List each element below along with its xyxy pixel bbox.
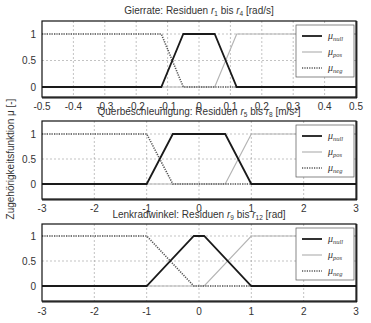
x-tick-label: 0.4 xyxy=(318,101,332,112)
x-tick-label: -1 xyxy=(142,306,151,317)
y-tick-label: 0.5 xyxy=(22,154,36,165)
legend-box xyxy=(296,125,354,177)
x-tick-label: 3 xyxy=(353,306,359,317)
x-tick-label: -0.4 xyxy=(65,101,83,112)
x-tick-label: -2 xyxy=(90,306,99,317)
y-tick-label: 0.5 xyxy=(22,55,36,66)
y-tick-label: 1 xyxy=(30,231,36,242)
y-tick-label: 0 xyxy=(30,179,36,190)
x-tick-label: -2 xyxy=(90,203,99,214)
x-tick-label: -3 xyxy=(38,203,47,214)
x-tick-label: -0.5 xyxy=(33,101,51,112)
y-tick-label: 0.5 xyxy=(22,256,36,267)
legend: μnullμposμneg xyxy=(296,228,354,280)
y-tick-label: 1 xyxy=(30,29,36,40)
x-tick-label: 0.5 xyxy=(349,101,363,112)
subplot-title: Lenkradwinkel: Residuen r9 bis r12 [rad] xyxy=(112,209,285,221)
y-tick-label: 1 xyxy=(30,129,36,140)
membership-function-figure: 00.51-0.5-0.4-0.3-0.2-0.100.10.20.30.40.… xyxy=(0,0,371,323)
subplot-querbeschleunigung: 00.51-3-2-10123Querbeschleunigung: Resid… xyxy=(22,106,359,214)
x-tick-label: 1 xyxy=(249,306,255,317)
x-tick-label: 2 xyxy=(301,306,307,317)
subplot-title: Querbeschleunigung: Residuen r5 bis r8 [… xyxy=(98,106,301,118)
y-tick-label: 0 xyxy=(30,82,36,93)
subplot-title: Gierrate: Residuen r1 bis r4 [rad/s] xyxy=(124,5,274,17)
x-tick-label: 3 xyxy=(353,203,359,214)
legend-box xyxy=(296,25,354,77)
subplot-gierrate: 00.51-0.5-0.4-0.3-0.2-0.100.10.20.30.40.… xyxy=(22,5,363,112)
x-tick-label: 2 xyxy=(301,203,307,214)
y-tick-label: 0 xyxy=(30,281,36,292)
legend: μnullμposμneg xyxy=(296,125,354,177)
subplot-lenkradwinkel: 00.51-3-2-10123Lenkradwinkel: Residuen r… xyxy=(22,209,359,317)
legend-box xyxy=(296,228,354,280)
x-tick-label: 0 xyxy=(196,306,202,317)
x-tick-label: -3 xyxy=(38,306,47,317)
legend: μnullμposμneg xyxy=(296,25,354,77)
